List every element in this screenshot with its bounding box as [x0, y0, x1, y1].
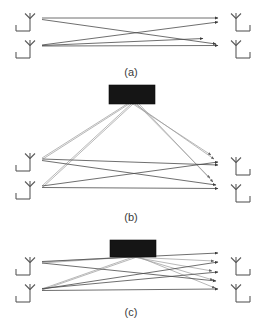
mimo-ris-figure: (a) (b)	[0, 0, 265, 331]
ray-direct	[42, 46, 218, 47]
panel-caption-b: (b)	[124, 211, 137, 223]
intelligent-surface-panel-b	[109, 85, 155, 104]
figure-background	[0, 0, 265, 331]
intelligent-surface-panel-c	[110, 240, 156, 257]
panel-caption-a: (a)	[124, 66, 137, 78]
panel-caption-c: (c)	[125, 306, 138, 318]
